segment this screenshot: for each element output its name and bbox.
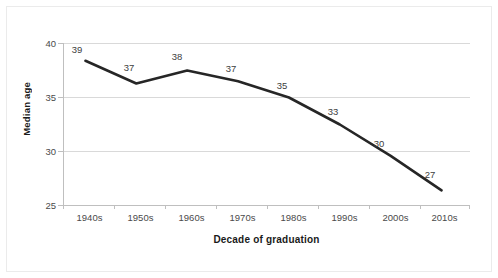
data-label-1980s: 35 [271, 81, 293, 91]
data-label-2000s: 30 [368, 139, 390, 149]
data-label-1990s: 33 [322, 107, 344, 117]
chart-figure: 40 35 30 25 Median age 1940s 1950s 1960s… [0, 0, 498, 278]
y-tick-label-30: 30 [38, 147, 56, 157]
data-label-2010s: 27 [419, 170, 441, 180]
x-tick-label-1940s: 1940s [64, 213, 115, 223]
data-label-1970s: 37 [220, 64, 242, 74]
x-tick-label-1950s: 1950s [115, 213, 166, 223]
x-tick-label-1980s: 1980s [268, 213, 319, 223]
y-axis-title: Median age [21, 82, 35, 136]
series-line-median-age [85, 61, 441, 191]
x-tick-label-1990s: 1990s [319, 213, 370, 223]
data-label-1960s: 38 [166, 52, 188, 62]
data-label-1950s: 37 [118, 63, 140, 73]
x-tick-label-2010s: 2010s [419, 213, 470, 223]
y-tick-label-35: 35 [38, 93, 56, 103]
x-tick-label-1970s: 1970s [217, 213, 268, 223]
y-tick-label-25: 25 [38, 201, 56, 211]
y-tick-label-40: 40 [38, 39, 56, 49]
x-tick-label-1960s: 1960s [166, 213, 217, 223]
x-axis-title: Decade of graduation [63, 234, 470, 245]
data-label-1940s: 39 [66, 45, 88, 55]
x-tick-label-2000s: 2000s [370, 213, 421, 223]
